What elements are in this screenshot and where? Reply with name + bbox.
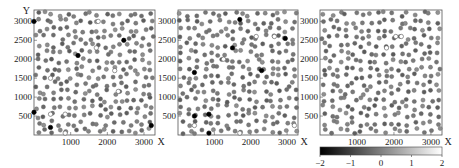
data-point (351, 53, 355, 57)
data-point (241, 65, 245, 69)
data-point (178, 59, 182, 63)
data-point (275, 11, 279, 15)
data-point (95, 93, 99, 97)
data-point (208, 19, 212, 23)
data-point (178, 84, 182, 88)
outlier-point-low (192, 70, 196, 74)
data-point (397, 122, 401, 126)
data-point (133, 131, 137, 135)
data-point (104, 124, 108, 128)
data-point (148, 68, 152, 72)
data-point (111, 129, 115, 133)
data-point (290, 26, 294, 30)
data-point (254, 129, 258, 133)
data-point (438, 27, 442, 31)
data-point (376, 10, 380, 14)
data-point (124, 72, 128, 76)
data-point (337, 27, 341, 31)
data-point (412, 88, 416, 92)
data-point (188, 77, 192, 81)
data-point (253, 22, 257, 26)
data-point (204, 67, 208, 71)
data-point (219, 81, 223, 85)
data-point (94, 13, 98, 17)
data-point (290, 58, 294, 62)
data-point (114, 100, 118, 104)
data-point (411, 114, 415, 118)
data-point (74, 21, 78, 25)
colorbar-gradient (320, 147, 442, 155)
data-point (346, 56, 350, 60)
data-point (74, 106, 78, 110)
data-point (83, 127, 87, 131)
data-point (385, 69, 389, 73)
data-point (396, 88, 400, 92)
data-point (132, 34, 136, 38)
y-tick-label: 1500 (158, 73, 177, 83)
outlier-point-low (122, 38, 126, 42)
data-point (248, 72, 252, 76)
data-point (58, 105, 62, 109)
data-point (58, 14, 62, 18)
data-point (211, 89, 215, 93)
data-point (270, 115, 274, 119)
data-point (185, 41, 189, 45)
data-point (59, 82, 63, 86)
data-point (384, 131, 388, 135)
data-point (328, 59, 332, 63)
data-point (227, 92, 231, 96)
data-point (335, 84, 339, 88)
data-point (404, 10, 408, 14)
outlier-point-high (238, 131, 242, 135)
data-point (382, 18, 386, 22)
data-point (239, 119, 243, 123)
data-point (277, 26, 281, 30)
data-point (216, 74, 220, 78)
data-point (179, 26, 183, 30)
data-point (177, 11, 181, 15)
x-tick-label: 1000 (62, 137, 81, 147)
data-point (127, 129, 131, 133)
data-point (330, 99, 334, 103)
data-point (353, 41, 357, 45)
data-point (255, 11, 259, 15)
data-point (219, 129, 223, 133)
data-point (350, 81, 354, 85)
data-point (90, 104, 94, 108)
data-point (277, 51, 281, 55)
data-point (339, 127, 343, 131)
data-point (437, 88, 441, 92)
data-point (271, 130, 275, 134)
data-point (335, 120, 339, 124)
data-point (248, 130, 252, 134)
outlier-point-low (192, 114, 196, 118)
data-point (142, 67, 146, 71)
data-point (389, 29, 393, 33)
data-point (72, 114, 76, 118)
data-point (413, 19, 417, 23)
data-point (211, 97, 215, 101)
data-point (391, 58, 395, 62)
data-point (58, 50, 62, 54)
data-point (56, 77, 60, 81)
data-point (239, 21, 243, 25)
data-point (111, 22, 115, 26)
data-point (276, 60, 280, 64)
data-point (98, 97, 102, 101)
data-point (50, 131, 54, 135)
data-point (284, 128, 288, 132)
data-point (263, 80, 267, 84)
data-point (291, 52, 295, 56)
data-point (374, 112, 378, 116)
y-tick-label: 500 (163, 111, 177, 121)
data-point (224, 27, 228, 31)
data-point (277, 42, 281, 46)
data-point (374, 129, 378, 133)
data-point (322, 92, 326, 96)
data-point (359, 45, 363, 49)
data-point (268, 26, 272, 30)
y-tick-label: 3000 (158, 16, 177, 26)
data-point (401, 52, 405, 56)
data-point (117, 106, 121, 110)
data-point (436, 36, 440, 40)
